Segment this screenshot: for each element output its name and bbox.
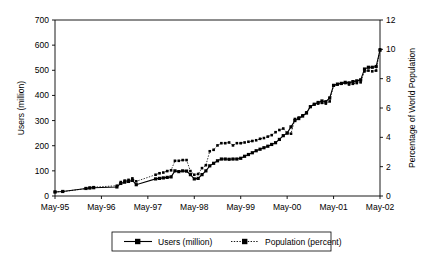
data-point-marker bbox=[340, 83, 343, 86]
right-axis-ticks: 024681012 bbox=[380, 15, 396, 201]
data-point-marker bbox=[201, 167, 204, 170]
data-point-marker bbox=[251, 151, 254, 154]
data-point-marker bbox=[270, 134, 273, 137]
data-point-marker bbox=[135, 183, 138, 186]
right-tick-label: 8 bbox=[386, 74, 391, 84]
data-point-marker bbox=[262, 146, 265, 149]
data-point-marker bbox=[379, 48, 382, 51]
data-point-marker bbox=[367, 69, 370, 72]
data-point-marker bbox=[297, 116, 300, 119]
data-point-marker bbox=[54, 191, 57, 194]
data-point-marker bbox=[289, 125, 292, 128]
data-point-marker bbox=[193, 177, 196, 180]
data-point-marker bbox=[321, 102, 324, 105]
data-point-marker bbox=[282, 134, 285, 137]
data-point-marker bbox=[154, 177, 157, 180]
data-point-marker bbox=[212, 162, 215, 165]
data-point-marker bbox=[266, 145, 269, 148]
data-point-marker bbox=[239, 157, 242, 160]
right-tick-label: 2 bbox=[386, 162, 391, 172]
data-point-marker bbox=[92, 186, 95, 189]
data-point-marker bbox=[251, 140, 254, 143]
data-point-marker bbox=[247, 153, 250, 156]
y2-axis-title: Percentage of World Population bbox=[407, 48, 417, 168]
data-point-marker bbox=[185, 159, 188, 162]
x-tick-label: May-98 bbox=[180, 202, 209, 212]
data-point-marker bbox=[235, 157, 238, 160]
left-tick-label: 500 bbox=[35, 65, 49, 75]
data-point-marker bbox=[158, 177, 161, 180]
x-tick-label: May-01 bbox=[319, 202, 348, 212]
data-point-marker bbox=[131, 177, 134, 180]
data-point-marker bbox=[255, 149, 258, 152]
data-point-marker bbox=[216, 144, 219, 147]
data-point-marker bbox=[123, 179, 126, 182]
data-point-marker bbox=[228, 141, 231, 144]
legend-label-users: Users (million) bbox=[158, 237, 212, 247]
internet-users-growth-chart: 0100200300400500600700 024681012 May-95M… bbox=[0, 0, 433, 264]
x-tick-label: May-96 bbox=[87, 202, 116, 212]
data-point-marker bbox=[243, 141, 246, 144]
data-point-marker bbox=[255, 139, 258, 142]
data-point-marker bbox=[174, 160, 177, 163]
data-point-marker bbox=[169, 175, 172, 178]
data-point-marker bbox=[317, 102, 320, 105]
plot-area bbox=[55, 20, 380, 196]
data-point-marker bbox=[185, 170, 188, 173]
data-point-marker bbox=[220, 157, 223, 160]
data-point-marker bbox=[208, 150, 211, 153]
left-tick-label: 400 bbox=[35, 90, 49, 100]
data-point-marker bbox=[309, 105, 312, 108]
data-point-marker bbox=[61, 190, 64, 193]
data-point-marker bbox=[89, 187, 92, 190]
legend-label-population: Population (percent) bbox=[265, 237, 342, 247]
data-point-marker bbox=[371, 70, 374, 73]
data-point-marker bbox=[181, 169, 184, 172]
data-point-marker bbox=[197, 177, 200, 180]
data-point-marker bbox=[270, 143, 273, 146]
data-point-marker bbox=[328, 100, 331, 103]
data-point-marker bbox=[200, 173, 203, 176]
legend-marker-population bbox=[242, 239, 247, 244]
data-point-marker bbox=[352, 83, 355, 86]
data-point-marker bbox=[286, 132, 289, 135]
data-point-marker bbox=[259, 138, 262, 141]
data-point-marker bbox=[170, 169, 173, 172]
data-point-marker bbox=[278, 129, 281, 132]
data-point-marker bbox=[332, 84, 335, 87]
left-tick-label: 100 bbox=[35, 166, 49, 176]
data-point-marker bbox=[204, 169, 207, 172]
x-tick-label: May-00 bbox=[273, 202, 302, 212]
data-point-marker bbox=[154, 173, 157, 176]
data-point-marker bbox=[166, 170, 169, 173]
legend: Users (million) Population (percent) bbox=[112, 232, 342, 251]
data-point-marker bbox=[173, 169, 176, 172]
data-point-marker bbox=[116, 184, 119, 187]
data-point-marker bbox=[236, 142, 239, 145]
left-axis-ticks: 0100200300400500600700 bbox=[35, 15, 55, 201]
data-point-marker bbox=[367, 66, 370, 69]
y-axis-title: Users (million) bbox=[16, 81, 26, 135]
data-point-marker bbox=[274, 141, 277, 144]
data-point-marker bbox=[189, 173, 192, 176]
data-point-marker bbox=[325, 102, 328, 105]
data-point-marker bbox=[258, 148, 261, 151]
data-point-marker bbox=[119, 181, 122, 184]
data-point-marker bbox=[267, 135, 270, 138]
data-point-marker bbox=[363, 70, 366, 73]
left-tick-label: 300 bbox=[35, 116, 49, 126]
data-point-marker bbox=[158, 172, 161, 175]
right-tick-label: 10 bbox=[386, 44, 396, 54]
data-point-marker bbox=[135, 180, 138, 183]
x-tick-label: May-02 bbox=[366, 202, 395, 212]
data-point-marker bbox=[193, 173, 196, 176]
data-point-marker bbox=[127, 179, 130, 182]
data-point-marker bbox=[216, 159, 219, 162]
data-point-marker bbox=[247, 140, 250, 143]
data-point-marker bbox=[224, 142, 227, 145]
x-tick-label: May-95 bbox=[41, 202, 70, 212]
data-point-marker bbox=[359, 81, 362, 84]
plot-background bbox=[55, 20, 380, 196]
right-tick-label: 4 bbox=[386, 132, 391, 142]
data-point-marker bbox=[274, 131, 277, 134]
